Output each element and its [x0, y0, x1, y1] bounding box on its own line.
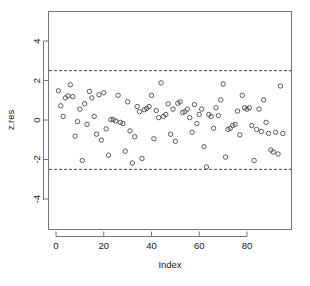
data-point — [262, 98, 266, 102]
data-point — [250, 123, 254, 127]
data-point — [104, 127, 108, 131]
data-point — [102, 91, 106, 95]
data-point — [278, 84, 282, 88]
data-point — [190, 130, 194, 134]
x-tick-label: 80 — [242, 240, 253, 251]
data-point — [61, 114, 65, 118]
data-point — [149, 93, 153, 97]
y-tick-label: -2 — [31, 155, 42, 163]
data-point — [128, 129, 132, 133]
data-point — [173, 139, 177, 143]
x-tick-label: 0 — [53, 240, 58, 251]
data-point — [199, 107, 203, 111]
data-point — [197, 112, 201, 116]
y-tick-label: 2 — [31, 78, 42, 83]
plot-panel-border — [49, 12, 292, 230]
x-axis-tick-labels: 020406080 — [53, 240, 252, 251]
data-point — [85, 122, 89, 126]
data-point — [56, 89, 60, 93]
data-point — [137, 110, 141, 114]
data-point — [135, 104, 139, 108]
scatter-plot-figure: 420-2-4 020406080 Index z.res — [0, 0, 310, 286]
data-point — [71, 94, 75, 98]
data-point — [90, 96, 94, 100]
data-point — [171, 107, 175, 111]
x-tick-label: 60 — [194, 240, 205, 251]
data-point — [188, 115, 192, 119]
data-point — [116, 93, 120, 97]
data-point — [281, 131, 285, 135]
data-point — [202, 144, 206, 148]
data-point — [156, 115, 160, 119]
data-point — [154, 108, 158, 112]
data-point — [125, 100, 129, 104]
data-point — [192, 102, 196, 106]
data-point — [240, 93, 244, 97]
data-point — [219, 98, 223, 102]
data-point — [211, 126, 215, 130]
data-point — [97, 93, 101, 97]
data-point — [82, 102, 86, 106]
data-point — [166, 102, 170, 106]
data-point — [216, 113, 220, 117]
data-point — [273, 130, 277, 134]
data-point — [73, 134, 77, 138]
data-point — [221, 82, 225, 86]
data-point — [94, 132, 98, 136]
data-point — [59, 104, 63, 108]
data-point — [257, 107, 261, 111]
data-point — [130, 161, 134, 165]
data-point — [99, 138, 103, 142]
data-point — [264, 120, 268, 124]
data-point — [87, 89, 91, 93]
y-axis-ticks — [44, 41, 49, 199]
data-point — [78, 107, 82, 111]
data-point — [223, 155, 227, 159]
data-point — [276, 152, 280, 156]
x-axis: 020406080 — [53, 232, 252, 252]
x-axis-title: Index — [158, 259, 181, 270]
data-points-group — [56, 81, 285, 170]
data-point — [80, 158, 84, 162]
y-tick-label: 0 — [31, 117, 42, 122]
data-point — [133, 135, 137, 139]
x-tick-label: 20 — [98, 240, 109, 251]
plot-canvas: 420-2-4 020406080 Index z.res — [0, 0, 310, 286]
reference-lines-group — [49, 71, 291, 170]
y-tick-label: -4 — [31, 195, 42, 203]
data-point — [254, 127, 258, 131]
data-point — [252, 158, 256, 162]
data-point — [238, 133, 242, 137]
y-axis: 420-2-4 — [31, 38, 49, 203]
y-axis-title: z.res — [5, 109, 16, 130]
y-tick-label: 4 — [31, 38, 42, 43]
data-point — [159, 81, 163, 85]
data-point — [266, 131, 270, 135]
data-point — [214, 106, 218, 110]
data-point — [123, 149, 127, 153]
data-point — [195, 121, 199, 125]
data-point — [140, 156, 144, 160]
x-tick-label: 40 — [146, 240, 157, 251]
x-axis-ticks — [56, 232, 247, 237]
data-point — [259, 129, 263, 133]
data-point — [92, 114, 96, 118]
data-point — [168, 132, 172, 136]
data-point — [152, 137, 156, 141]
data-point — [235, 109, 239, 113]
data-point — [68, 83, 72, 87]
data-point — [106, 153, 110, 157]
data-point — [204, 165, 208, 169]
y-axis-tick-labels: 420-2-4 — [31, 38, 42, 203]
data-point — [75, 119, 79, 123]
